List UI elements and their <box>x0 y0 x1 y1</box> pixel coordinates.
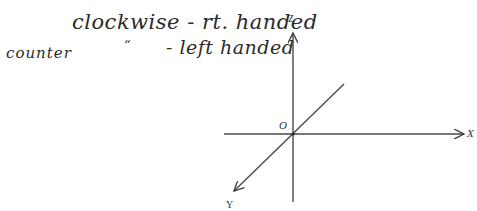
coordinate-diagram: clockwise - rt. handed counter “ - left … <box>0 0 477 211</box>
note-ditto-marks: “ <box>124 38 131 53</box>
note-clockwise-right-handed: clockwise - rt. handed <box>72 10 318 34</box>
origin-label: O <box>279 119 287 131</box>
origin-point <box>291 132 294 135</box>
note-left-handed: - left handed <box>166 36 294 58</box>
y-axis <box>234 84 344 191</box>
z-axis-label: Z <box>288 13 294 24</box>
x-axis-label: X <box>467 127 474 139</box>
note-counter: counter <box>6 44 72 62</box>
y-axis-label: Y <box>226 199 233 210</box>
